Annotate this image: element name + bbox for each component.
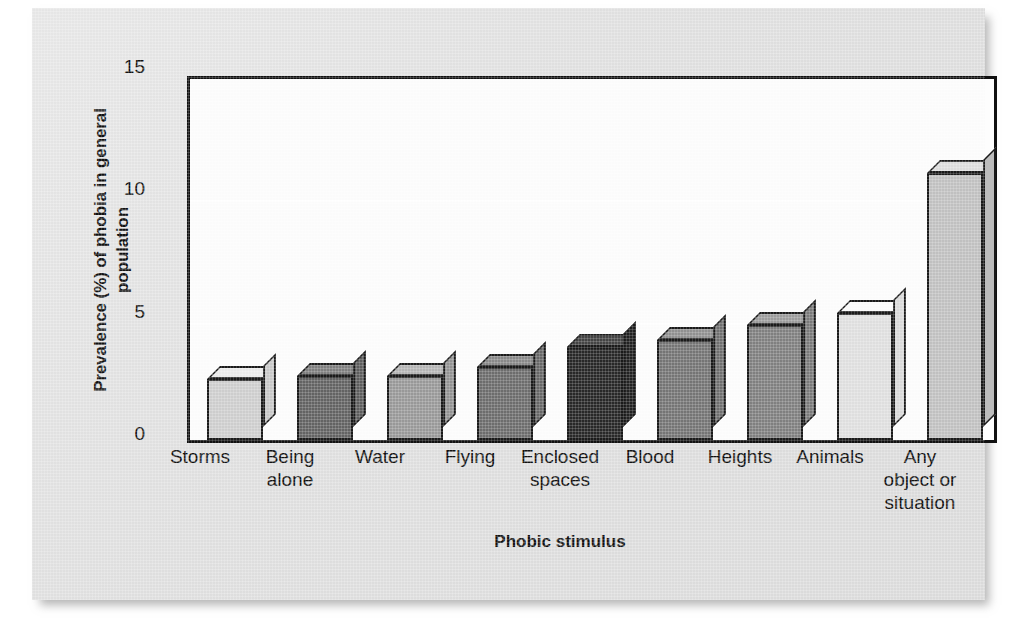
y-axis-title-line-2: population — [112, 207, 134, 293]
x-axis-tick-label-line: Blood — [599, 445, 701, 468]
x-axis-tick-label-line: Heights — [689, 445, 791, 468]
bar-front-face — [927, 173, 983, 440]
y-axis-title-line-1: Prevalence (%) of phobia in general — [90, 108, 112, 392]
bar-front-face — [207, 379, 263, 440]
bar-front-face — [297, 376, 353, 440]
bar-side-face — [533, 341, 546, 427]
y-axis-tick-label: 0 — [103, 423, 145, 445]
x-axis-tick-label-line: object or — [869, 468, 971, 491]
x-axis-tick-label: Beingalone — [239, 445, 341, 491]
chart-card: Prevalence (%) of phobia in general popu… — [32, 8, 985, 600]
x-axis-tick-label: Anyobject orsituation — [869, 445, 971, 515]
x-axis-tick-label-line: situation — [869, 491, 971, 514]
bar-side-face — [623, 321, 636, 427]
bar-front-face — [567, 347, 623, 440]
bar[interactable] — [207, 379, 263, 440]
x-axis-title: Phobic stimulus — [155, 532, 965, 552]
bar-side-face — [803, 299, 816, 427]
x-axis-tick-label-line: Water — [329, 445, 431, 468]
x-axis-tick-label: Heights — [689, 445, 791, 468]
x-axis-tick-label-line: Being — [239, 445, 341, 468]
bar[interactable] — [927, 173, 983, 440]
bar[interactable] — [657, 340, 713, 440]
y-axis-tick-label: 10 — [103, 178, 145, 200]
bar[interactable] — [837, 313, 893, 440]
x-axis-tick-label-line: Enclosed — [509, 445, 611, 468]
y-axis-tick-label: 15 — [103, 56, 145, 78]
x-axis-tick-label-line: Animals — [779, 445, 881, 468]
x-axis-tick-label: Animals — [779, 445, 881, 468]
x-axis-tick-label-line: alone — [239, 468, 341, 491]
y-axis-tick-label: 5 — [103, 301, 145, 323]
bar[interactable] — [567, 347, 623, 440]
bar[interactable] — [747, 325, 803, 440]
x-axis-tick-label: Blood — [599, 445, 701, 468]
x-axis-tick-label: Enclosedspaces — [509, 445, 611, 491]
y-axis-title: Prevalence (%) of phobia in general popu… — [90, 50, 134, 450]
x-axis-tick-label: Water — [329, 445, 431, 468]
x-axis-tick-label-line: spaces — [509, 468, 611, 491]
bar-side-face — [893, 287, 906, 427]
x-axis-tick-label: Flying — [419, 445, 521, 468]
x-axis-tick-label-line: Flying — [419, 445, 521, 468]
figure: Prevalence (%) of phobia in general popu… — [0, 0, 1033, 629]
bar-side-face — [353, 350, 366, 427]
bar-front-face — [747, 325, 803, 440]
bar-side-face — [983, 147, 996, 427]
x-axis-tick-label-line: Storms — [149, 445, 251, 468]
bar-front-face — [837, 313, 893, 440]
bar-side-face — [263, 353, 276, 427]
bar-side-face — [713, 314, 726, 427]
bar[interactable] — [387, 376, 443, 440]
plot-area — [187, 76, 997, 443]
x-axis-tick-label-line: Any — [869, 445, 971, 468]
bar[interactable] — [477, 367, 533, 440]
bar-front-face — [477, 367, 533, 440]
bar[interactable] — [297, 376, 353, 440]
bar-front-face — [657, 340, 713, 440]
x-axis-tick-label: Storms — [149, 445, 251, 468]
bar-front-face — [387, 376, 443, 440]
gridline — [190, 200, 994, 202]
bar-side-face — [443, 350, 456, 427]
